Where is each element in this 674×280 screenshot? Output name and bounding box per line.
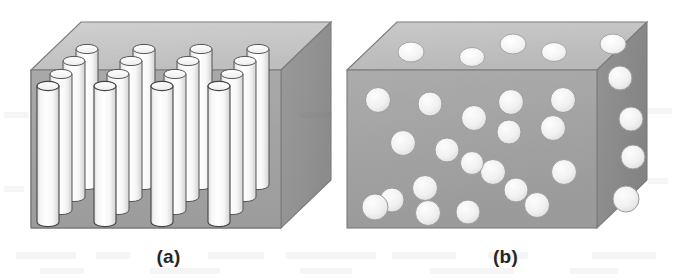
panel-b-caption: (b) (337, 246, 674, 268)
particle (619, 107, 643, 131)
particle (497, 120, 521, 144)
particle (481, 160, 506, 185)
particle (613, 186, 639, 212)
particle (525, 193, 550, 218)
particle (413, 176, 438, 201)
particle (608, 66, 632, 90)
particle (600, 34, 626, 54)
particle (542, 43, 567, 62)
particle (499, 90, 524, 115)
particle (462, 106, 487, 131)
composite-microstructure-figure (0, 0, 674, 280)
particle (435, 138, 459, 162)
fiber (37, 81, 59, 226)
panel-a-fiber-composite (31, 22, 331, 228)
panel-b-particle-composite (347, 22, 647, 228)
fiber (151, 81, 173, 226)
particle (504, 178, 528, 202)
particle (391, 131, 416, 156)
particle (461, 152, 484, 175)
particle (398, 42, 424, 62)
particle (366, 88, 391, 113)
particle (551, 88, 576, 113)
particle (541, 116, 566, 141)
fiber (94, 81, 116, 226)
particle (416, 201, 441, 226)
particle (500, 34, 526, 54)
panel-a-caption: (a) (0, 246, 337, 268)
particle (460, 48, 485, 67)
particle (362, 194, 388, 220)
fiber (208, 81, 230, 226)
particle (552, 160, 577, 185)
particle (621, 145, 645, 169)
particle (456, 200, 480, 224)
particle (418, 92, 442, 116)
